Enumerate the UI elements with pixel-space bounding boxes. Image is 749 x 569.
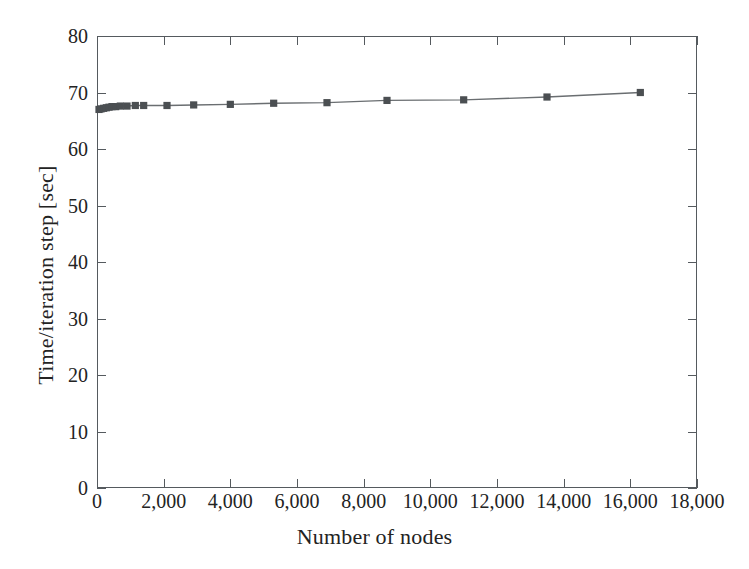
x-axis-tick-label: 18,000 <box>670 491 725 511</box>
y-axis-tick-right <box>688 149 697 150</box>
y-axis-tick-right <box>688 432 697 433</box>
x-axis-title: Number of nodes <box>0 524 749 550</box>
x-axis-tick-top <box>630 36 631 45</box>
x-axis-tick-label: 10,000 <box>403 491 458 511</box>
data-point-marker <box>637 89 644 96</box>
x-axis-tick <box>630 479 631 488</box>
y-axis-tick-right <box>688 93 697 94</box>
x-axis-tick-top <box>697 36 698 45</box>
x-axis-tick-top <box>297 36 298 45</box>
y-axis-tick-right <box>688 262 697 263</box>
x-axis-tick-label: 8,000 <box>341 491 386 511</box>
x-axis-tick-top <box>230 36 231 45</box>
x-axis-tick <box>164 479 165 488</box>
x-axis-tick-top <box>430 36 431 45</box>
y-axis-tick <box>97 149 106 150</box>
y-axis-tick-right <box>688 206 697 207</box>
x-axis-tick <box>697 479 698 488</box>
x-axis-tick <box>497 479 498 488</box>
x-axis-tick-label: 12,000 <box>470 491 525 511</box>
y-axis-tick <box>97 262 106 263</box>
data-point-marker <box>190 101 197 108</box>
x-axis-tick-top <box>164 36 165 45</box>
x-axis-tick-top <box>97 36 98 45</box>
x-axis-tick <box>97 479 98 488</box>
y-axis-tick <box>97 206 106 207</box>
y-axis-tick <box>97 432 106 433</box>
y-axis-tick <box>97 375 106 376</box>
x-axis-tick-top <box>564 36 565 45</box>
x-axis-tick-label: 4,000 <box>208 491 253 511</box>
x-axis-tick <box>430 479 431 488</box>
data-point-marker <box>163 102 170 109</box>
y-axis-tick-right <box>688 36 697 37</box>
y-axis-tick <box>97 488 106 489</box>
data-point-marker <box>132 102 139 109</box>
x-axis-tick-top <box>497 36 498 45</box>
data-point-marker <box>323 99 330 106</box>
data-point-marker <box>123 102 130 109</box>
y-axis-title: Time/iteration step [sec] <box>33 125 59 425</box>
data-point-marker <box>383 97 390 104</box>
data-point-marker <box>117 102 124 109</box>
x-axis-tick <box>297 479 298 488</box>
x-axis-tick <box>364 479 365 488</box>
x-axis-tick-label: 0 <box>92 491 102 511</box>
y-axis-tick-right <box>688 375 697 376</box>
x-axis-tick <box>230 479 231 488</box>
y-axis-tick-label: 70 <box>0 83 97 103</box>
data-point-marker <box>460 96 467 103</box>
data-point-marker <box>227 101 234 108</box>
plot-data-layer <box>97 36 697 488</box>
data-point-marker <box>140 102 147 109</box>
y-axis-tick <box>97 36 106 37</box>
x-axis-tick-label: 2,000 <box>141 491 186 511</box>
x-axis-tick-label: 14,000 <box>536 491 591 511</box>
x-axis-tick-top <box>364 36 365 45</box>
y-axis-tick-right <box>688 488 697 489</box>
y-axis-tick <box>97 319 106 320</box>
y-axis-tick-label: 80 <box>0 26 97 46</box>
x-axis-tick-label: 6,000 <box>275 491 320 511</box>
y-axis-tick-label: 0 <box>0 478 97 498</box>
data-line <box>99 93 640 110</box>
x-axis-tick <box>564 479 565 488</box>
y-axis-tick-right <box>688 319 697 320</box>
y-axis-tick <box>97 93 106 94</box>
data-point-marker <box>543 93 550 100</box>
data-point-marker <box>270 100 277 107</box>
x-axis-tick-label: 16,000 <box>603 491 658 511</box>
chart-figure: 01020304050607080 02,0004,0006,0008,0001… <box>0 0 749 569</box>
